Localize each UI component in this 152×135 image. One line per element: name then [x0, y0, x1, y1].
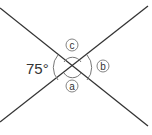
line-1 [0, 8, 148, 126]
arc-left-75 [53, 55, 58, 80]
svg-text:a: a [69, 81, 75, 92]
angle-diagram: 75° c b a [0, 0, 152, 135]
arc-bottom-a [64, 73, 81, 78]
arc-right-b [87, 55, 92, 80]
marker-a: a [66, 80, 78, 92]
svg-text:c: c [70, 40, 75, 51]
angle-label-75: 75° [26, 60, 49, 77]
marker-b: b [97, 60, 109, 72]
line-2 [0, 6, 148, 122]
svg-text:b: b [100, 61, 106, 72]
marker-c: c [66, 39, 78, 51]
